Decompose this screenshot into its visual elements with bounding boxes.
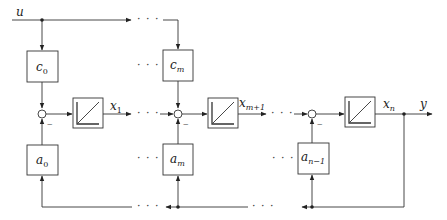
state-label-xm1: xm+1 <box>239 96 265 112</box>
minus-sign-n-1: − <box>317 119 323 130</box>
block-diagram: · · · · · · · · · · · · · · · · · · · · … <box>0 0 447 220</box>
ellipsis-c: · · · <box>137 59 159 72</box>
ellipsis-mid-1: · · · <box>137 107 159 120</box>
ellipsis-mid-2: · · · <box>271 107 293 120</box>
branch-point-feedback-m <box>176 205 180 209</box>
branch-point-output <box>402 112 406 116</box>
ellipsis-bottom-1: · · · <box>137 200 159 213</box>
output-label: y <box>419 97 427 111</box>
ellipsis-a-n: · · · <box>272 152 294 165</box>
branch-point-feedback-n <box>310 205 314 209</box>
summing-junction-0 <box>38 110 46 118</box>
summing-junction-n-1 <box>308 110 316 118</box>
state-label-xn: xn <box>383 97 395 113</box>
ellipsis-bottom-2: · · · <box>252 200 274 213</box>
state-label-x1: x1 <box>110 99 122 115</box>
minus-sign-m: − <box>183 119 189 130</box>
ellipsis-top: · · · <box>137 13 159 26</box>
integrator-block-m+1 <box>208 98 238 128</box>
branch-point-input <box>40 18 44 22</box>
input-label: u <box>16 5 24 19</box>
integrator-block-n <box>345 97 375 127</box>
ellipsis-a-m: · · · <box>137 152 159 165</box>
input-line-to-cm <box>163 20 178 49</box>
summing-junction-m <box>174 110 182 118</box>
integrator-block-1 <box>73 98 103 128</box>
minus-sign-0: − <box>47 119 53 130</box>
